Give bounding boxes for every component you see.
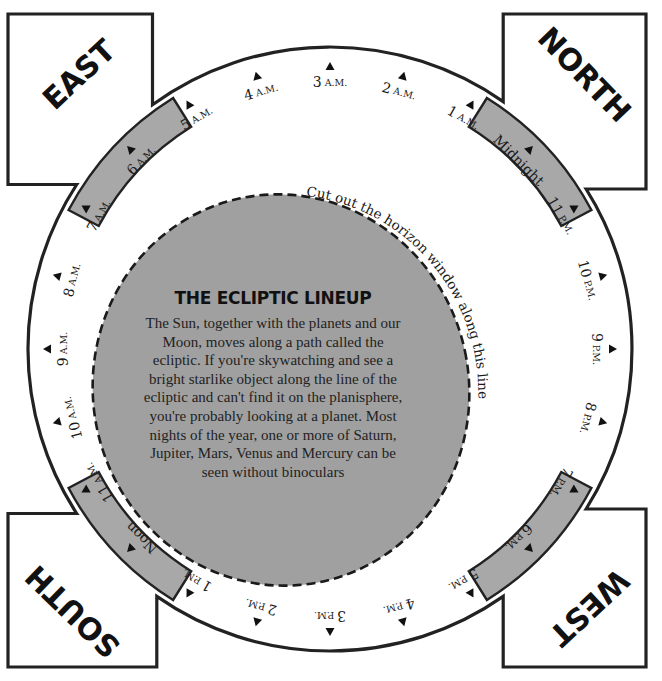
info-heading: THE ECLIPTIC LINEUP — [138, 288, 408, 308]
hour-suffix: P.M. — [314, 611, 334, 622]
hour-number: 9 — [589, 333, 605, 342]
info-body: The Sun, together with the planets and o… — [138, 314, 408, 481]
hour-number: 9 — [55, 357, 71, 366]
hour-number: 3 — [313, 74, 322, 90]
info-box: THE ECLIPTIC LINEUP The Sun, together wi… — [138, 288, 408, 481]
hour-suffix: P.M. — [592, 345, 603, 365]
hour-suffix: A.M. — [58, 332, 69, 356]
hour-suffix: A.M. — [324, 77, 348, 88]
hour-number: 3 — [337, 608, 346, 624]
